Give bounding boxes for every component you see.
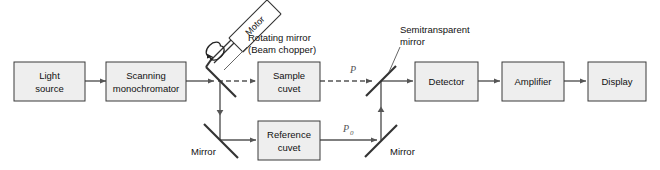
amplifier-label: Amplifier — [515, 76, 552, 87]
scanning-monochromator-label-line1: Scanning — [126, 70, 166, 81]
block-display[interactable]: Display — [588, 62, 646, 101]
power-reference-subscript: 0 — [350, 129, 354, 137]
block-detector[interactable]: Detector — [415, 62, 478, 101]
reference-cuvet-label-line2: cuvet — [278, 142, 301, 153]
block-scanning-monochromator[interactable]: Scanning monochromator — [106, 62, 186, 101]
block-reference-cuvet[interactable]: Reference cuvet — [258, 121, 320, 160]
detector-label: Detector — [429, 76, 465, 87]
rotating-mirror-label-line2: (Beam chopper) — [248, 44, 316, 55]
rotating-mirror-surface — [206, 67, 236, 97]
sample-cuvet-label-line1: Sample — [273, 70, 305, 81]
power-reference-label: P — [342, 123, 349, 134]
block-sample-cuvet[interactable]: Sample cuvet — [258, 62, 320, 101]
light-source-label-line1: Light — [39, 70, 60, 81]
beam-chopper-down-arrowhead — [217, 110, 224, 116]
beam-reference-up-arrowhead — [378, 107, 385, 113]
semitransparent-mirror-label-line2: mirror — [400, 36, 425, 47]
mirror-lower-left-label: Mirror — [191, 146, 216, 157]
reference-cuvet-label-line1: Reference — [267, 129, 311, 140]
mirror-lower-right-label: Mirror — [390, 146, 415, 157]
display-label: Display — [601, 76, 632, 87]
power-sample-label: P — [349, 64, 356, 75]
semitransparent-mirror-label-line1: Semitransparent — [400, 24, 470, 35]
block-amplifier[interactable]: Amplifier — [502, 62, 564, 101]
rotation-arrow — [203, 39, 226, 62]
sample-cuvet-label-line2: cuvet — [278, 83, 301, 94]
rotating-mirror-label-line1: Rotating mirror — [248, 32, 311, 43]
spectrophotometer-diagram: Motor Light source Scanning monochromato… — [0, 0, 660, 170]
light-source-label-line2: source — [35, 83, 64, 94]
block-light-source[interactable]: Light source — [14, 62, 85, 101]
scanning-monochromator-label-line2: monochromator — [113, 83, 180, 94]
rotating-mirror-leader — [224, 47, 247, 70]
